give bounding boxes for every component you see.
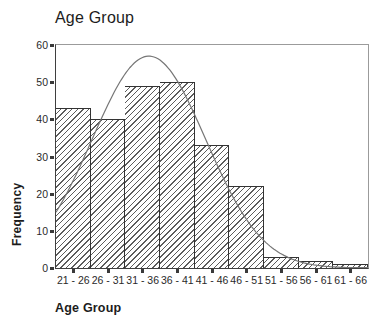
y-axis-tick-label: 20 xyxy=(20,188,48,200)
x-axis-tick-mark xyxy=(107,269,110,273)
x-axis-tick-mark xyxy=(176,269,179,273)
histogram-figure: Age Group 010203040506021 - 2626 - 3131 … xyxy=(0,0,388,331)
x-axis-tick-label: 61 - 66 xyxy=(329,274,373,286)
x-axis-tick-mark xyxy=(349,269,352,273)
x-axis-tick-mark xyxy=(141,269,144,273)
chart-title: Age Group xyxy=(55,8,134,28)
y-axis-tick-mark xyxy=(50,267,54,270)
x-axis-tick-mark xyxy=(280,269,283,273)
y-axis-tick-mark xyxy=(50,81,54,84)
y-axis-tick-label: 10 xyxy=(20,225,48,237)
y-axis-tick-mark xyxy=(50,118,54,121)
x-axis-tick-mark xyxy=(245,269,248,273)
y-axis-tick-label: 30 xyxy=(20,151,48,163)
y-axis-tick-label: 40 xyxy=(20,113,48,125)
y-axis-title: Frequency xyxy=(10,183,24,246)
y-axis-tick-label: 0 xyxy=(20,262,48,274)
x-axis-title: Age Group xyxy=(55,301,121,315)
x-axis-tick-mark xyxy=(315,269,318,273)
y-axis-tick-label: 50 xyxy=(20,76,48,88)
y-axis-tick-mark xyxy=(50,230,54,233)
normal-curve-overlay xyxy=(56,45,368,268)
y-axis-tick-mark xyxy=(50,156,54,159)
y-axis-tick-mark xyxy=(50,44,54,47)
y-axis-tick-label: 60 xyxy=(20,39,48,51)
y-axis-tick-mark xyxy=(50,193,54,196)
x-axis-tick-mark xyxy=(72,269,75,273)
plot-area: 010203040506021 - 2626 - 3131 - 3636 - 4… xyxy=(55,44,369,269)
x-axis-tick-mark xyxy=(211,269,214,273)
normal-curve xyxy=(56,56,368,267)
